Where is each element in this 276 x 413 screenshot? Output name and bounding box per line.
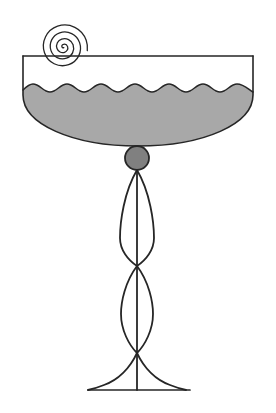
illustration-root [0, 0, 276, 413]
knop-group [125, 146, 149, 170]
knop-sphere [125, 146, 149, 170]
goblet-drawing [0, 0, 276, 413]
bowl-group [23, 56, 253, 146]
